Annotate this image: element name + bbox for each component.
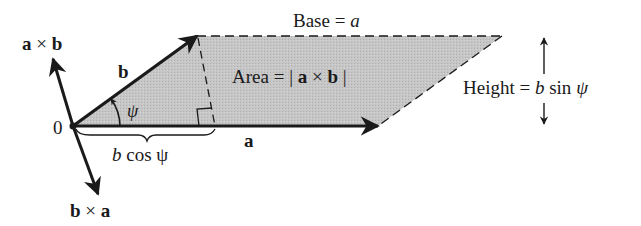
bcos-psi: ψ — [156, 144, 168, 165]
area-vector-a: a — [298, 66, 308, 87]
diagram-graphics — [0, 0, 641, 226]
bcos-b: b — [112, 144, 122, 165]
cross-symbol: × — [36, 33, 47, 54]
base-word: Base — [293, 10, 330, 31]
cross-product-diagram: Base = a Area = | a × b | Height = b sin… — [0, 0, 641, 226]
origin-point — [70, 123, 77, 130]
base-variable: a — [350, 10, 360, 31]
vector-b-label: b — [118, 62, 129, 81]
equals-sign: = — [274, 66, 285, 87]
b-cos-psi-brace — [76, 129, 215, 141]
height-b: b — [535, 77, 545, 98]
equals-sign: = — [519, 77, 530, 98]
area-word: Area — [232, 66, 269, 87]
cross-symbol: × — [85, 200, 96, 221]
psi-label: ψ — [127, 102, 138, 120]
equals-sign: = — [335, 10, 346, 31]
bxa-a: a — [101, 200, 111, 221]
axb-a: a — [22, 33, 32, 54]
height-label: Height = b sin ψ — [463, 78, 588, 97]
bxa-b: b — [70, 200, 81, 221]
height-word: Height — [463, 77, 515, 98]
abs-bar-right: | — [343, 66, 347, 87]
cross-symbol: × — [312, 66, 323, 87]
b-cross-a-label: b × a — [70, 201, 110, 220]
a-cross-b-arrow — [53, 59, 73, 126]
origin-label: 0 — [53, 118, 63, 137]
abs-bar-left: | — [289, 66, 293, 87]
base-label: Base = a — [293, 11, 360, 30]
height-psi: ψ — [576, 77, 588, 98]
b-cos-psi-label: b cos ψ — [112, 145, 168, 164]
sin-word: sin — [549, 77, 571, 98]
axb-b: b — [52, 33, 63, 54]
area-vector-b: b — [327, 66, 338, 87]
a-cross-b-label: a × b — [22, 34, 62, 53]
b-cross-a-arrow — [73, 126, 98, 194]
cos-word: cos — [126, 144, 151, 165]
area-label: Area = | a × b | — [232, 67, 347, 86]
vector-a-label: a — [244, 131, 254, 150]
